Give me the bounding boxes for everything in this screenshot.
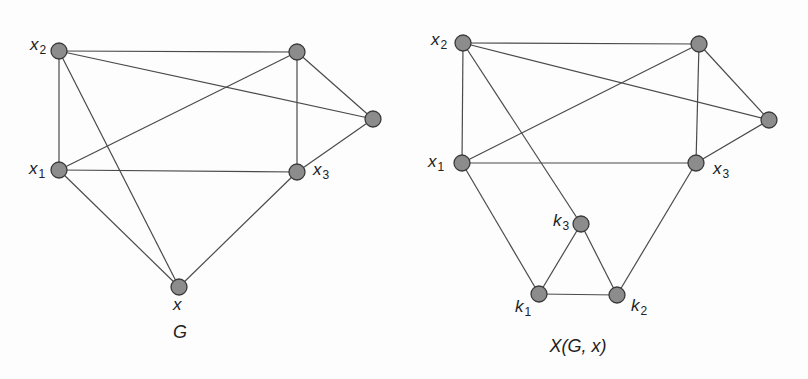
node-x2 [51, 43, 67, 59]
node-label-x3: x3 [313, 161, 329, 181]
edge-k1-k2 [539, 294, 617, 295]
figure-canvas: x2x1x3xGx2x1x3k3k1k2X(G, x) [0, 0, 808, 379]
edge-x1-x [59, 170, 179, 287]
edge-k3-k2 [581, 224, 617, 295]
node-x1 [51, 162, 67, 178]
node-label-k1: k1 [515, 298, 531, 318]
edge-k3-k1 [539, 224, 581, 294]
node-x2 [455, 35, 471, 51]
edge-x2-x [59, 51, 179, 287]
edge-tr-r [699, 44, 769, 120]
node-label-k3: k3 [553, 212, 569, 232]
caption-G: G [173, 322, 187, 343]
edge-x2-r [59, 51, 373, 119]
node-k2 [609, 287, 625, 303]
node-x3 [289, 164, 305, 180]
node-label-x2: x2 [431, 31, 447, 51]
edge-r-x3 [297, 119, 373, 172]
node-label-x2: x2 [30, 36, 46, 56]
node-label-x3: x3 [713, 160, 729, 180]
edge-tr-x1 [59, 52, 297, 170]
graph-diagrams [0, 0, 808, 379]
node-k1 [531, 286, 547, 302]
node-label-x1: x1 [29, 160, 45, 180]
edge-x1-k1 [462, 163, 539, 294]
node-label-k2: k2 [631, 297, 647, 317]
node-x1 [454, 155, 470, 171]
edge-x2-r [463, 43, 769, 120]
edge-x3-x [179, 172, 297, 287]
node-x3 [688, 155, 704, 171]
edge-x2-tr [59, 51, 297, 52]
node-k3 [573, 216, 589, 232]
graph-G [51, 43, 381, 295]
node-x [171, 279, 187, 295]
node-label-x: x [173, 296, 182, 313]
edge-x3-k2 [617, 163, 696, 295]
edge-tr-r [297, 52, 373, 119]
node-r [365, 111, 381, 127]
node-r [761, 112, 777, 128]
edge-x2-tr [463, 43, 699, 44]
edge-r-x3 [696, 120, 769, 163]
node-label-x1: x1 [428, 153, 444, 173]
node-tr [289, 44, 305, 60]
edge-tr-x3 [696, 44, 699, 163]
caption-XGx: X(G, x) [550, 336, 607, 357]
node-tr [691, 36, 707, 52]
edge-tr-x1 [462, 44, 699, 163]
edge-x2-x1 [462, 43, 463, 163]
edge-x1-x3 [59, 170, 297, 172]
